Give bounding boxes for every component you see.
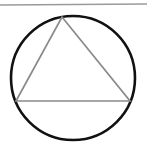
horizontal-rule <box>0 4 147 5</box>
geometry-diagram <box>0 0 147 146</box>
diagram-background <box>0 0 147 146</box>
figure-canvas <box>0 0 147 146</box>
